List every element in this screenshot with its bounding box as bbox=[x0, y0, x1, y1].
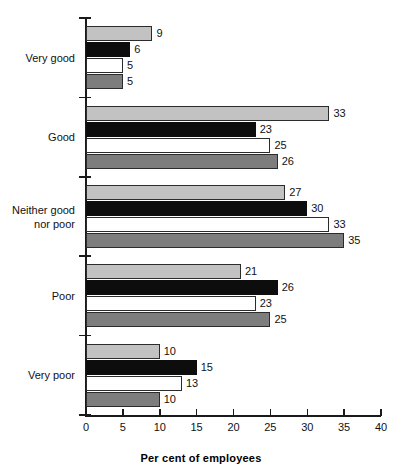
bar-value-label: 10 bbox=[164, 344, 176, 359]
bar-series-2-very-poor bbox=[86, 360, 197, 375]
bar-value-label: 15 bbox=[201, 360, 213, 375]
category-label-good: Good bbox=[48, 130, 75, 144]
bar-value-label: 25 bbox=[274, 138, 286, 153]
bar-value-label: 21 bbox=[245, 264, 257, 279]
x-tick-10 bbox=[159, 409, 161, 416]
x-tick-20 bbox=[233, 409, 235, 416]
x-tick-label-5: 5 bbox=[108, 421, 138, 434]
bar-value-label: 33 bbox=[333, 217, 345, 232]
plot-area: 0510152025303540 Very goodGoodNeither go… bbox=[0, 0, 402, 476]
bar-series-4-neither-good-nor-poor bbox=[86, 233, 344, 248]
category-label-poor: Poor bbox=[52, 289, 75, 303]
bar-value-label: 26 bbox=[282, 154, 294, 169]
x-tick-35 bbox=[343, 409, 345, 416]
y-tick-1 bbox=[79, 97, 91, 99]
bar-series-2-neither-good-nor-poor bbox=[86, 201, 307, 216]
bar-series-3-good bbox=[86, 138, 270, 153]
bar-value-label: 33 bbox=[333, 106, 345, 121]
bar-series-3-neither-good-nor-poor bbox=[86, 217, 329, 232]
x-axis-title: Per cent of employees bbox=[0, 452, 402, 464]
bar-value-label: 35 bbox=[348, 233, 360, 248]
category-label-very-poor: Very poor bbox=[28, 368, 75, 382]
category-label-very-good: Very good bbox=[25, 51, 75, 65]
x-tick-label-25: 25 bbox=[255, 421, 285, 434]
x-tick-label-20: 20 bbox=[219, 421, 249, 434]
bar-series-4-very-good bbox=[86, 74, 123, 89]
bar-series-2-very-good bbox=[86, 42, 130, 57]
bar-value-label: 30 bbox=[311, 201, 323, 216]
bar-series-1-very-poor bbox=[86, 344, 160, 359]
x-tick-5 bbox=[122, 409, 124, 416]
x-tick-label-30: 30 bbox=[292, 421, 322, 434]
bar-value-label: 9 bbox=[156, 26, 162, 41]
x-tick-15 bbox=[196, 409, 198, 416]
bar-series-1-good bbox=[86, 106, 329, 121]
bar-value-label: 26 bbox=[282, 280, 294, 295]
x-tick-label-10: 10 bbox=[145, 421, 175, 434]
x-tick-label-40: 40 bbox=[366, 421, 396, 434]
x-tick-0 bbox=[85, 409, 87, 416]
bar-series-1-very-good bbox=[86, 26, 152, 41]
bar-series-4-good bbox=[86, 154, 278, 169]
x-tick-label-35: 35 bbox=[329, 421, 359, 434]
y-tick-4 bbox=[79, 335, 91, 337]
x-tick-label-15: 15 bbox=[182, 421, 212, 434]
y-tick-2 bbox=[79, 176, 91, 178]
bar-series-4-very-poor bbox=[86, 392, 160, 407]
bar-series-1-poor bbox=[86, 264, 241, 279]
x-tick-label-0: 0 bbox=[71, 421, 101, 434]
bar-value-label: 23 bbox=[260, 296, 272, 311]
bar-value-label: 5 bbox=[127, 74, 133, 89]
y-tick-3 bbox=[79, 255, 91, 257]
bar-series-1-neither-good-nor-poor bbox=[86, 185, 285, 200]
x-tick-25 bbox=[270, 409, 272, 416]
bar-value-label: 5 bbox=[127, 58, 133, 73]
bar-value-label: 6 bbox=[134, 42, 140, 57]
bar-chart: 0510152025303540 Very goodGoodNeither go… bbox=[0, 0, 402, 476]
bar-series-4-poor bbox=[86, 312, 270, 327]
bar-series-2-poor bbox=[86, 280, 278, 295]
bar-value-label: 13 bbox=[186, 376, 198, 391]
bar-value-label: 27 bbox=[289, 185, 301, 200]
x-tick-40 bbox=[380, 409, 382, 416]
x-tick-30 bbox=[307, 409, 309, 416]
bar-series-3-very-good bbox=[86, 58, 123, 73]
bar-series-3-very-poor bbox=[86, 376, 182, 391]
bar-value-label: 23 bbox=[260, 122, 272, 137]
category-label-neither-good-nor-poor: Neither good nor poor bbox=[12, 203, 75, 231]
bar-series-3-poor bbox=[86, 296, 256, 311]
bar-value-label: 25 bbox=[274, 312, 286, 327]
y-tick-0 bbox=[79, 17, 91, 19]
bar-value-label: 10 bbox=[164, 392, 176, 407]
bar-series-2-good bbox=[86, 122, 256, 137]
